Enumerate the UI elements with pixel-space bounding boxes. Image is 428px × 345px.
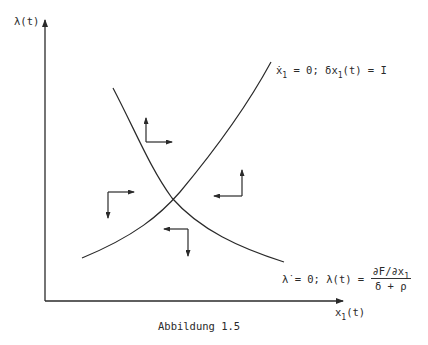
arrow-group-left (108, 192, 134, 218)
falling-curve (113, 88, 284, 262)
rising-mid: = 0; δx (287, 64, 338, 76)
fraction-numerator-sub: 1 (404, 272, 409, 281)
phase-diagram (0, 0, 428, 345)
x-axis-label: x1(t) (335, 306, 365, 318)
figure-caption: Abbildung 1.5 (158, 320, 240, 332)
falling-lhs: λ̇ = 0; λ(t) = (282, 273, 371, 285)
y-axis-label: λ(t) (14, 15, 39, 27)
rising-curve-label: ẋ1 = 0; δx1(t) = I (276, 64, 387, 76)
x-label-tail: (t) (346, 306, 365, 318)
falling-fraction: ∂F/∂x1δ + ρ (371, 265, 411, 292)
arrow-group-top (146, 118, 172, 142)
rising-rhs: (t) = I (343, 64, 387, 76)
arrow-group-bottom (164, 229, 188, 256)
fraction-numerator: ∂F/∂x (373, 265, 405, 277)
rising-lhs-sub: 1 (282, 71, 287, 80)
arrow-group-right (214, 170, 242, 196)
rising-mid-sub: 1 (338, 71, 343, 80)
falling-curve-label: λ̇ = 0; λ(t) = ∂F/∂x1δ + ρ (282, 265, 411, 292)
x-label-sub: 1 (341, 313, 346, 322)
